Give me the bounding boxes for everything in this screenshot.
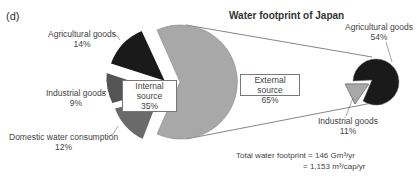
label-text: External source	[243, 75, 297, 95]
total-line-2: = 1,153 m³/cap/yr	[303, 161, 365, 172]
label-text: Agricultural goods	[345, 22, 413, 32]
label-pct: 54%	[345, 32, 413, 42]
label-int-dom: Domestic water consumption 12%	[9, 132, 118, 152]
leader-ext-agri	[386, 42, 392, 62]
label-pct: 35%	[125, 101, 174, 111]
total-line-1: Total water footprint = 146 Gm³/yr	[236, 150, 355, 161]
label-text: Agricultural goods	[48, 29, 116, 39]
label-external-source: External source 65%	[240, 74, 300, 96]
label-ext-agri: Agricultural goods 54%	[345, 22, 413, 42]
label-text: Domestic water consumption	[9, 132, 118, 142]
label-text: Industrial goods	[46, 88, 106, 98]
label-pct: 11%	[318, 126, 378, 136]
label-pct: 9%	[46, 98, 106, 108]
label-int-ind: Industrial goods 9%	[46, 88, 106, 108]
label-ext-ind: Industrial goods 11%	[318, 116, 378, 136]
chart-title: Water footprint of Japan	[229, 10, 344, 21]
label-pct: 14%	[48, 39, 116, 49]
label-text: Internal source	[125, 81, 174, 101]
label-internal-source: Internal source 35%	[122, 80, 177, 112]
panel-label: (d)	[6, 10, 19, 22]
label-pct: 12%	[9, 142, 118, 152]
label-text: Industrial goods	[318, 116, 378, 126]
label-int-agri: Agricultural goods 14%	[48, 29, 116, 49]
slice-external-agricultural	[353, 59, 399, 105]
label-pct: 65%	[243, 95, 297, 105]
